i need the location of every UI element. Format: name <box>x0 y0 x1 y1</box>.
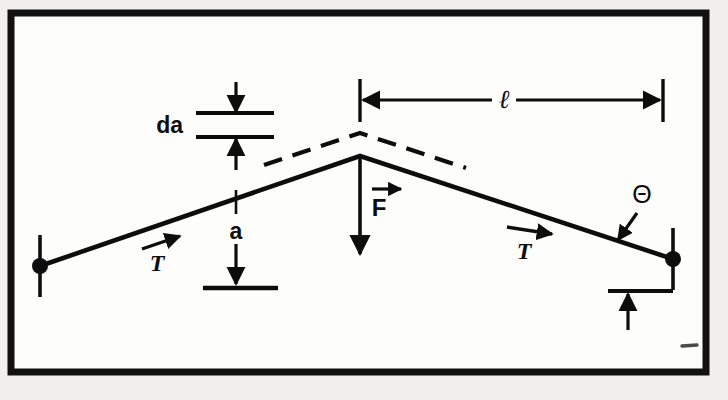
angle-label: Θ <box>632 180 651 208</box>
left-anchor-node <box>32 258 48 274</box>
right-anchor-node <box>665 251 681 267</box>
sag-label: a <box>230 218 243 244</box>
half-span-label: ℓ <box>499 85 510 114</box>
figure-page: da ℓ <box>0 0 728 400</box>
scan-artifact-mark <box>682 345 697 346</box>
wire-tension-diagram: da ℓ <box>0 0 728 400</box>
da-label: da <box>156 112 183 138</box>
force-label: F <box>372 194 387 221</box>
tension-left-label: T <box>150 250 166 276</box>
tension-right-label: T <box>517 238 533 264</box>
